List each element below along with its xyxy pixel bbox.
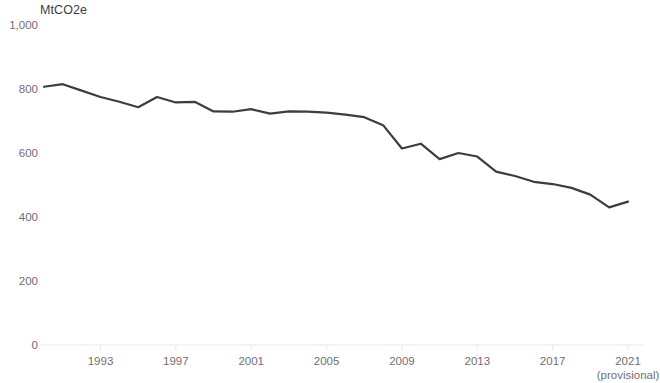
emissions-line-chart: MtCO2e 02004006008001,000 19931997200120… [0, 0, 660, 383]
plot-area: 02004006008001,000 199319972001200520092… [0, 0, 660, 383]
chart-plot-svg [0, 0, 660, 383]
data-series-line [44, 84, 628, 207]
